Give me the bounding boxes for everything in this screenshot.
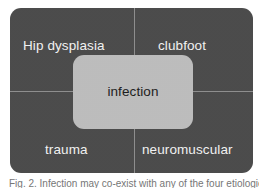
center-box: infection [73,55,193,129]
quadrant-label-bottom-left: trauma [45,143,88,157]
figure-container: Hip dysplasia clubfoot trauma neuromuscu… [0,0,264,188]
quadrant-label-top-right: clubfoot [158,39,206,53]
figure-caption: Fig. 2. Infection may co-exist with any … [9,178,259,188]
quadrant-panel: Hip dysplasia clubfoot trauma neuromuscu… [10,8,253,173]
quadrant-label-bottom-right: neuromuscular [142,143,233,157]
center-box-label: infection [107,85,158,99]
quadrant-label-top-left: Hip dysplasia [23,39,105,53]
